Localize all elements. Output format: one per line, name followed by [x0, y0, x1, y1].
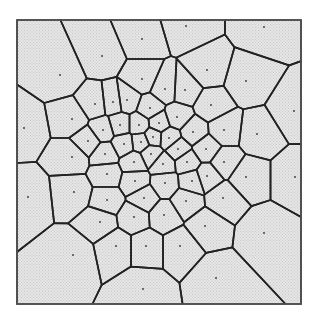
- voronoi-canvas: [0, 0, 319, 322]
- voronoi-site: [185, 25, 187, 27]
- voronoi-site: [145, 245, 147, 247]
- voronoi-site: [115, 245, 117, 247]
- voronoi-site: [112, 101, 114, 103]
- voronoi-site: [293, 110, 295, 112]
- voronoi-site: [87, 140, 89, 142]
- voronoi-site: [168, 137, 170, 139]
- voronoi-site: [150, 153, 152, 155]
- voronoi-site: [141, 78, 143, 80]
- voronoi-site: [94, 103, 96, 105]
- voronoi-site: [72, 254, 74, 256]
- voronoi-site: [162, 163, 164, 165]
- voronoi-site: [73, 191, 75, 193]
- voronoi-site: [215, 277, 217, 279]
- voronoi-site: [102, 129, 104, 131]
- voronoi-site: [223, 161, 225, 163]
- voronoi-site: [256, 133, 258, 135]
- voronoi-site: [185, 200, 187, 202]
- voronoi-site: [222, 197, 224, 199]
- voronoi-site: [152, 136, 154, 138]
- voronoi-site: [59, 74, 61, 76]
- voronoi-site: [149, 107, 151, 109]
- voronoi-site: [263, 26, 265, 28]
- voronoi-site: [142, 288, 144, 290]
- voronoi-site: [204, 225, 206, 227]
- voronoi-site: [133, 161, 135, 163]
- voronoi-site: [106, 199, 108, 201]
- voronoi-site: [140, 141, 142, 143]
- voronoi-site: [138, 124, 140, 126]
- voronoi-site: [71, 156, 73, 158]
- voronoi-site: [191, 180, 193, 182]
- voronoi-site: [126, 99, 128, 101]
- voronoi-site: [179, 245, 181, 247]
- voronoi-site: [123, 143, 125, 145]
- voronoi-site: [210, 104, 212, 106]
- voronoi-site: [134, 180, 136, 182]
- voronoi-site: [133, 216, 135, 218]
- voronoi-site: [143, 197, 145, 199]
- voronoi-site: [294, 176, 296, 178]
- voronoi-site: [164, 182, 166, 184]
- voronoi-site: [223, 129, 225, 131]
- voronoi-site: [263, 232, 265, 234]
- voronoi-site: [245, 80, 247, 82]
- voronoi-site: [106, 173, 108, 175]
- voronoi-site: [206, 69, 208, 71]
- voronoi-site: [192, 131, 194, 133]
- voronoi-site: [177, 148, 179, 150]
- voronoi-site: [104, 153, 106, 155]
- voronoi-site: [184, 89, 186, 91]
- voronoi-site: [206, 175, 208, 177]
- diagram-area: [17, 20, 301, 304]
- voronoi-diagram: [0, 0, 319, 322]
- voronoi-site: [164, 88, 166, 90]
- voronoi-site: [158, 122, 160, 124]
- voronoi-site: [119, 124, 121, 126]
- voronoi-site: [101, 55, 103, 57]
- voronoi-site: [163, 214, 165, 216]
- voronoi-site: [186, 161, 188, 163]
- voronoi-site: [23, 127, 25, 129]
- voronoi-site: [176, 116, 178, 118]
- voronoi-site: [141, 38, 143, 40]
- voronoi-site: [245, 176, 247, 178]
- voronoi-site: [205, 148, 207, 150]
- voronoi-site: [27, 196, 29, 198]
- voronoi-site: [99, 221, 101, 223]
- voronoi-site: [71, 118, 73, 120]
